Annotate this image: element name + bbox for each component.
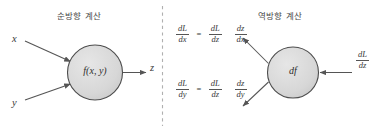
fraction-numerator: dz	[235, 24, 247, 35]
output-label-z: z	[150, 62, 154, 73]
fraction-numerator: dL	[176, 79, 189, 90]
incoming-gradient-label: dL dz	[356, 50, 369, 70]
fraction-numerator: dL	[209, 79, 222, 90]
fraction-denominator: dx	[176, 35, 189, 45]
backward-panel-title: 역방향 계산	[258, 9, 302, 21]
arrow-y-to-node	[25, 84, 71, 100]
input-label-y: y	[12, 97, 17, 108]
fraction-dz-dy: dz dy	[235, 79, 247, 99]
fraction-denominator: dz	[356, 61, 369, 71]
input-label-x: x	[12, 33, 17, 44]
arrow-node-to-equation-dx	[243, 38, 269, 64]
node-f-label: f(x, y)	[72, 65, 118, 76]
forward-panel-title: 순방향 계산	[57, 9, 101, 21]
fraction-numerator: dL	[176, 24, 189, 35]
fraction-denominator: dy	[235, 90, 247, 100]
fraction-numerator: dL	[209, 24, 222, 35]
fraction-denominator: dz	[209, 35, 222, 45]
fraction-dl-dz: dL dz	[209, 79, 222, 99]
fraction-dz-dx: dz dx	[235, 24, 247, 44]
fraction-dl-dz-output: dL dz	[356, 50, 369, 70]
arrow-x-to-node	[25, 41, 71, 62]
equation-dl-dy: dL dy = dL dz dz dy	[176, 79, 247, 99]
equation-dl-dx: dL dx = dL dz dz dx	[176, 24, 247, 44]
fraction-numerator: dz	[235, 79, 247, 90]
fraction-numerator: dL	[356, 50, 369, 61]
fraction-dl-dx: dL dx	[176, 24, 189, 44]
fraction-denominator: dy	[176, 90, 189, 100]
computational-graph-figure: 순방향 계산 역방향 계산 x y z f(x, y) df dL dx = d…	[0, 0, 385, 130]
equals-sign: =	[193, 29, 204, 39]
fraction-denominator: dz	[209, 90, 222, 100]
fraction-dl-dy: dL dy	[176, 79, 189, 99]
fraction-denominator: dx	[235, 35, 247, 45]
node-df-label: df	[270, 65, 316, 76]
fraction-dl-dz: dL dz	[209, 24, 222, 44]
arrow-node-to-equation-dy	[243, 82, 269, 106]
equals-sign: =	[193, 84, 204, 94]
